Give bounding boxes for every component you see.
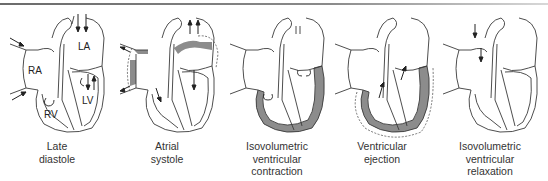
caption-line: Late (2, 140, 112, 153)
caption-line: Isovolumetric (222, 140, 332, 153)
caption-ventricular-ejection: Ventricular ejection (327, 140, 437, 165)
heart-diagram-isovolumetric-relaxation (435, 8, 545, 138)
label-rv: RV (44, 109, 58, 120)
panel-atrial-systole: Atrial systole (112, 8, 222, 181)
caption-isovolumetric-relaxation: Isovolumetric ventricular relaxation (435, 140, 545, 178)
heart-diagram-isovolumetric-contraction (222, 8, 332, 138)
caption-line: Ventricular (327, 140, 437, 153)
heart-diagram-ventricular-ejection (327, 8, 437, 138)
caption-line: diastole (2, 153, 112, 166)
caption-line: relaxation (435, 165, 545, 178)
caption-line: ventricular (435, 153, 545, 166)
caption-line: contraction (222, 165, 332, 178)
caption-late-diastole: Late diastole (2, 140, 112, 165)
panel-isovolumetric-contraction: Isovolumetric ventricular contraction (222, 8, 332, 181)
panel-ventricular-ejection: Ventricular ejection (327, 8, 437, 181)
label-lv: LV (82, 95, 94, 106)
caption-atrial-systole: Atrial systole (112, 140, 222, 165)
caption-line: ventricular (222, 153, 332, 166)
label-la: LA (78, 41, 91, 52)
caption-line: Atrial (112, 140, 222, 153)
heart-diagram-late-diastole: RA RV LA LV (2, 8, 112, 138)
heart-diagram-atrial-systole (112, 8, 222, 138)
panel-isovolumetric-relaxation: Isovolumetric ventricular relaxation (435, 8, 545, 181)
caption-line: systole (112, 153, 222, 166)
label-ra: RA (28, 65, 42, 76)
top-rule (0, 3, 548, 5)
panel-late-diastole: RA RV LA LV Late diastole (2, 8, 112, 181)
caption-line: Isovolumetric (435, 140, 545, 153)
caption-isovolumetric-contraction: Isovolumetric ventricular contraction (222, 140, 332, 178)
caption-line: ejection (327, 153, 437, 166)
